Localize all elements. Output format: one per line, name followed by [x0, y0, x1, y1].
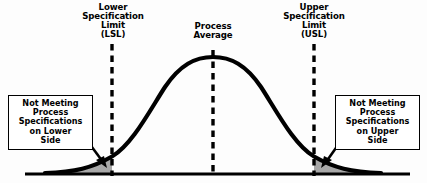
process-average-label: Process Average	[173, 22, 253, 40]
upper-side-callout-box: Not Meeting Process Specifications on Up…	[335, 95, 420, 150]
lower-callout-line-5: Side	[9, 136, 92, 145]
upper-callout-line-5: Side	[336, 136, 419, 145]
lower-specification-limit-label: Lower Specification Limit (LSL)	[63, 3, 163, 39]
upper-specification-limit-label: Upper Specification Limit (USL)	[264, 3, 364, 39]
spc-distribution-figure: Lower Specification Limit (LSL) Process …	[0, 0, 427, 183]
lower-side-callout-box: Not Meeting Process Specifications on Lo…	[8, 95, 93, 150]
lsl-label-line-4: (LSL)	[63, 30, 163, 39]
process-average-label-line-2: Average	[173, 31, 253, 40]
usl-label-line-4: (USL)	[264, 30, 364, 39]
